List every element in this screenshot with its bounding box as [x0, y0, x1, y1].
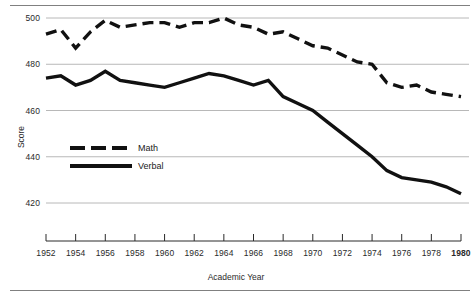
series-line-verbal	[46, 71, 461, 194]
x-axis-title: Academic Year	[176, 272, 296, 282]
y-tick-label: 500	[12, 13, 40, 23]
x-tick-label: 1980	[444, 248, 474, 258]
x-tick-marks-group	[46, 234, 461, 241]
legend-label-math: Math	[138, 143, 158, 153]
y-tick-label: 420	[12, 198, 40, 208]
gridlines-group	[46, 18, 469, 203]
y-tick-label: 480	[12, 59, 40, 69]
legend-label-verbal: Verbal	[138, 161, 164, 171]
chart-figure: 420440460480500 195219541956195819601962…	[0, 0, 474, 299]
y-axis-title: Score	[16, 107, 26, 167]
